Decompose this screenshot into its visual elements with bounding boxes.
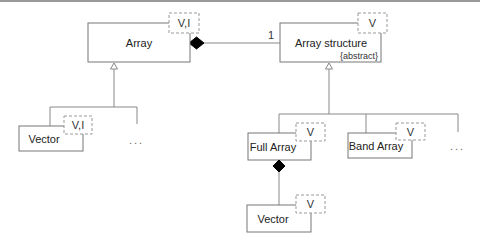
class-name: Vector [257, 213, 289, 225]
class-full-array[interactable]: Full Array V [248, 123, 325, 160]
inheritance-triangle [111, 63, 118, 69]
composition-diamond [189, 37, 204, 49]
class-band-array[interactable]: Band Array V [348, 123, 425, 158]
template-param-label: V [407, 126, 415, 138]
abstract-stereotype: {abstract} [340, 51, 378, 61]
template-param-label: V [307, 126, 315, 138]
composition-array-to-structure: 1 [189, 29, 280, 49]
template-param-label: V [369, 17, 377, 29]
class-array[interactable]: Array V,I [88, 13, 199, 62]
class-name: Array structure [295, 37, 367, 49]
multiplicity-label: 1 [268, 29, 274, 41]
class-name: Full Array [250, 141, 297, 153]
class-name: Vector [28, 133, 60, 145]
ellipsis-more-subclasses: ... [129, 134, 144, 146]
template-param-label: V,I [72, 119, 84, 131]
class-name: Array [126, 37, 153, 49]
class-vector-left[interactable]: Vector V,I [19, 116, 92, 151]
class-array-structure[interactable]: Array structure {abstract} V [280, 13, 387, 62]
class-name: Band Array [349, 140, 404, 152]
composition-diamond [273, 160, 285, 172]
template-param-label: V [307, 198, 315, 210]
inheritance-triangle [326, 63, 333, 69]
ellipsis-more-subclasses: ... [450, 140, 465, 152]
uml-class-diagram: 1 Array V,I Array structure {abstract} V… [0, 0, 480, 247]
template-param-label: V,I [178, 17, 190, 29]
composition-fullarray-to-vector [273, 160, 285, 205]
class-vector-bottom[interactable]: Vector V [247, 195, 325, 232]
